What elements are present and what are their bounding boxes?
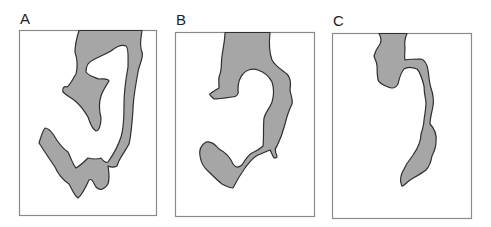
panel-b [176, 33, 315, 217]
figure-canvas [0, 0, 491, 227]
panel-c [333, 34, 472, 219]
panel-a [20, 31, 157, 216]
panel-b-shape [200, 33, 293, 189]
panel-c-shape [374, 34, 436, 187]
panel-a-shape [39, 31, 142, 199]
